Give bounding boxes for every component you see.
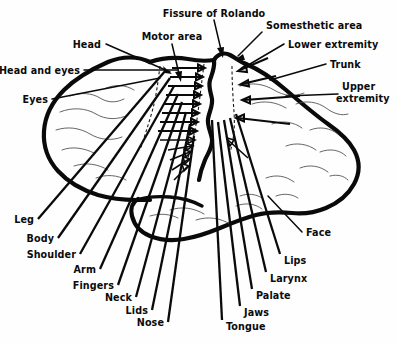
- gyrus-line: [196, 218, 230, 224]
- lower-extremity-leader-line: [250, 44, 284, 64]
- gyrus-line: [150, 214, 178, 218]
- label-arm: Arm: [74, 264, 96, 275]
- gyrus-line: [266, 176, 294, 182]
- right-label-leader-group: [250, 44, 338, 96]
- label-lower-extremity: Lower extremity: [288, 39, 379, 50]
- label-leg: Leg: [14, 214, 34, 225]
- gyrus-line: [330, 175, 348, 180]
- label-head-and-eyes: Head and eyes: [0, 65, 80, 76]
- label-nose: Nose: [137, 317, 165, 328]
- label-face: Face: [306, 227, 331, 238]
- label-upper: Upper: [342, 81, 375, 92]
- label-head: Head: [73, 39, 101, 50]
- figure-canvas: Fissure of Rolando Motor area Somestheti…: [0, 0, 396, 343]
- label-lips: Lips: [284, 255, 307, 266]
- somesthetic-pointer-group: [235, 32, 262, 60]
- gyrus-line: [286, 144, 316, 150]
- label-somesthetic-area: Somesthetic area: [266, 20, 362, 31]
- label-tongue: Tongue: [226, 321, 266, 332]
- gyrus-line: [74, 164, 108, 170]
- label-lids: Lids: [126, 305, 149, 316]
- sensory-arrow: [238, 118, 290, 124]
- sensory-arrow-head: [238, 65, 247, 72]
- gyrus-line: [236, 204, 262, 209]
- occipito-temporal-outline: [131, 199, 292, 240]
- label-larynx: Larynx: [270, 273, 308, 284]
- label-jaws: Jaws: [243, 307, 269, 318]
- gyrus-line: [300, 166, 328, 172]
- label-fissure-of-rolando: Fissure of Rolando: [163, 8, 266, 19]
- somesthetic-leader-line: [238, 32, 262, 56]
- label-palate: Palate: [256, 290, 291, 301]
- sensory-arrow: [244, 96, 300, 100]
- trunk-leader-line: [270, 64, 326, 80]
- gyrus-line: [62, 148, 94, 153]
- gyrus-line: [240, 194, 262, 198]
- fissure-pointer-group: [214, 20, 224, 58]
- shoulder-ray: [80, 86, 174, 254]
- motor-arrow-head: [182, 164, 189, 172]
- label-motor-area: Motor area: [142, 31, 203, 42]
- label-neck: Neck: [105, 292, 133, 303]
- label-trunk: Trunk: [330, 59, 361, 70]
- gyrus-line: [276, 194, 298, 198]
- label-extremity: extremity: [336, 93, 390, 104]
- brain-homunculus-diagram: Fissure of Rolando Motor area Somestheti…: [0, 0, 396, 343]
- label-eyes: Eyes: [23, 94, 49, 105]
- gyrus-line: [252, 102, 286, 108]
- label-body: Body: [27, 233, 55, 244]
- gyrus-line: [320, 150, 346, 156]
- gyrus-line: [170, 208, 204, 214]
- gyrus-line: [60, 109, 128, 119]
- gyrus-line: [70, 94, 124, 102]
- frontal-crown-outline: [150, 58, 214, 62]
- label-shoulder: Shoulder: [27, 249, 77, 260]
- label-fingers: Fingers: [73, 280, 114, 291]
